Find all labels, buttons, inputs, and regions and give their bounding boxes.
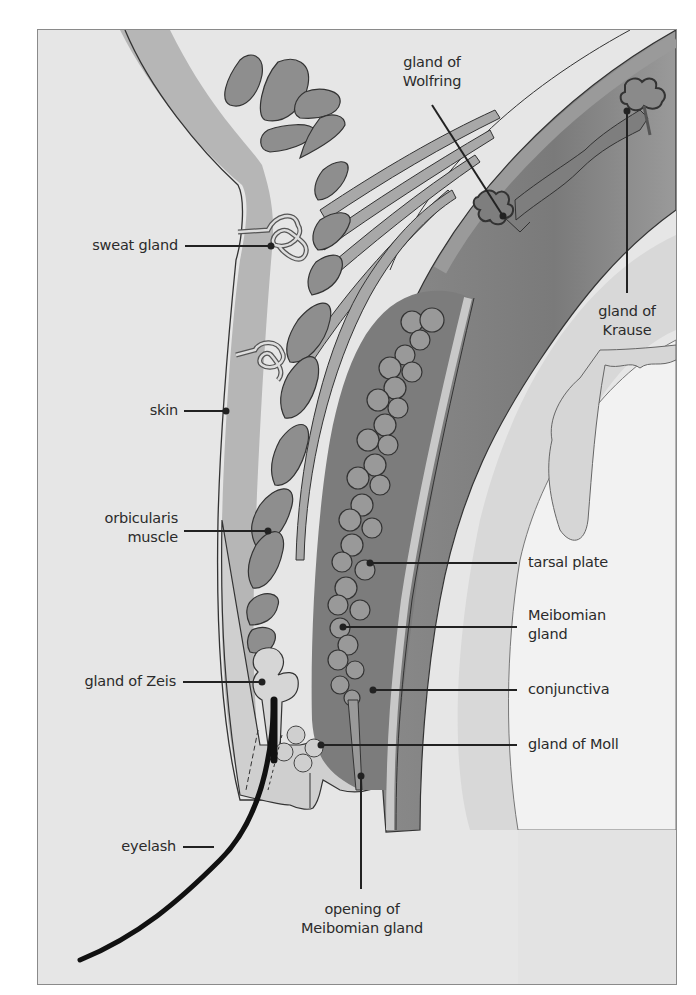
label-conjunctiva: conjunctiva xyxy=(528,680,609,699)
label-tarsal-plate: tarsal plate xyxy=(528,553,608,572)
label-orbicularis-muscle: orbicularis muscle xyxy=(60,509,178,547)
label-eyelash: eyelash xyxy=(60,837,176,856)
label-gland-of-krause: gland of Krause xyxy=(575,302,679,340)
label-gland-of-moll: gland of Moll xyxy=(528,735,619,754)
label-skin: skin xyxy=(60,401,178,420)
label-gland-of-wolfring: gland of Wolfring xyxy=(380,53,484,91)
label-opening-of-meibomian-gland: opening of Meibomian gland xyxy=(280,900,444,938)
label-sweat-gland: sweat gland xyxy=(60,236,178,255)
label-meibomian-gland: Meibomian gland xyxy=(528,606,606,644)
label-gland-of-zeis: gland of Zeis xyxy=(40,672,176,691)
